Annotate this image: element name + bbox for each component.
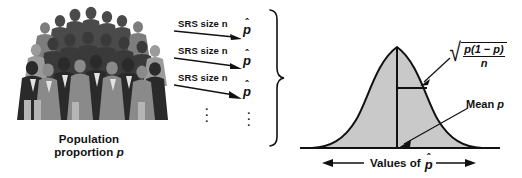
mean-annotation: Mean p	[466, 98, 504, 110]
sampling-panel: SRS size n ˆ p SRS size n ˆ p SRS size n	[174, 0, 314, 178]
population-caption-line1: Population	[0, 133, 178, 146]
sampling-distribution-figure: Population proportion p SRS size n ˆ p S…	[0, 0, 522, 178]
axis-arrow-left-head	[322, 159, 333, 167]
sd-fraction: p(1 − p) n	[461, 42, 506, 69]
axis-label-prefix: Values of	[370, 157, 424, 169]
standard-deviation-formula: √ p(1 − p) n	[448, 40, 507, 69]
sd-numerator: p(1 − p)	[463, 43, 504, 56]
mean-label-prefix: Mean	[466, 98, 497, 110]
arrow-icon-3	[174, 82, 246, 102]
srs-arrow-group-2: SRS size n ˆ p	[174, 45, 274, 71]
vertical-ellipsis-arrows: ···	[202, 106, 212, 124]
curly-brace-icon	[266, 8, 288, 148]
radical-icon: √	[449, 40, 460, 69]
normal-curve-chart	[300, 0, 522, 178]
srs-arrow-group-3: SRS size n ˆ p	[174, 72, 274, 98]
arrow-icon-1	[174, 28, 246, 44]
sd-leader-line	[424, 58, 450, 82]
p-symbol-1: p	[240, 24, 254, 35]
population-caption-prefix: proportion	[54, 146, 116, 158]
population-panel: Population proportion p	[0, 0, 178, 178]
mean-label-symbol: p	[497, 98, 504, 110]
sd-denominator: n	[463, 56, 504, 69]
population-caption-line2: proportion p	[0, 146, 178, 159]
axis-label-p-hat: ˆp	[424, 155, 434, 170]
crowd-of-people-photo	[12, 2, 168, 130]
distribution-panel: √ p(1 − p) n Mean p Values of ˆp	[300, 0, 522, 178]
p-hat-statistic-3: ˆ p	[240, 82, 254, 97]
axis-arrow-right-head	[465, 159, 476, 167]
p-symbol-2: p	[240, 55, 254, 66]
p-hat-statistic-1: ˆ p	[240, 20, 254, 35]
axis-label: Values of ˆp	[370, 155, 434, 170]
srs-arrow-group-1: SRS size n ˆ p	[174, 18, 274, 44]
vertical-ellipsis-statistics: ···	[244, 110, 254, 128]
p-symbol-3: p	[240, 86, 254, 97]
axis-p-symbol: p	[424, 159, 434, 170]
arrow-icon-2	[174, 55, 246, 73]
p-hat-statistic-2: ˆ p	[240, 51, 254, 66]
population-proportion-symbol: p	[117, 146, 124, 158]
